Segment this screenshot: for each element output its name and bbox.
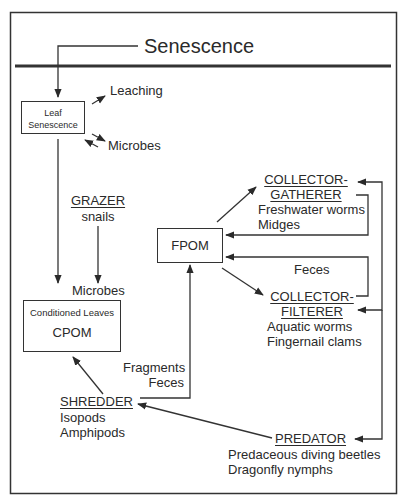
arrow-leaf-to-leaching [92,96,105,104]
shredder-member-2: Amphipods [60,426,125,439]
shredder-heading: SHREDDER [60,395,133,408]
arrow-predator-connector-predator [355,310,382,439]
predator-member-2: Dragonfly nymphs [228,463,333,476]
collector-gatherer-member-1: Freshwater worms [258,203,365,216]
arrow-leaf-to-microbes [92,134,105,141]
grazer-member: snails [70,210,126,223]
leaching-label: Leaching [110,84,163,97]
cpom-box: Conditioned Leaves CPOM [23,300,121,352]
collector-filterer-heading-2: FILTERER [264,305,360,318]
leaf-senescence-line-2: Senescence [22,119,84,131]
collector-filterer-member-2: Fingernail clams [267,335,362,348]
microbes-top-label: Microbes [108,139,161,152]
grazer-heading: GRAZER [70,194,126,207]
fpom-box: FPOM [157,228,223,263]
cpom-label: CPOM [24,325,120,341]
leaf-senescence-box: Leaf Senescence [21,101,85,134]
collector-gatherer-member-2: Midges [258,218,300,231]
arrow-predator-connector-filterer [358,300,382,310]
collector-gatherer-heading-2: GATHERER [256,188,356,201]
microbes-mid-label: Microbes [72,284,125,297]
collector-filterer-heading-1: COLLECTOR- [264,290,360,303]
collector-gatherer-heading-1: COLLECTOR- [256,173,356,186]
feces-bottom-label: Feces [123,376,184,389]
title-senescence: Senescence [144,36,254,56]
leaf-senescence-line-1: Leaf [22,107,84,119]
predator-member-1: Predaceous diving beetles [228,448,381,461]
arrow-predator-to-gatherer [358,182,382,300]
fragments-label: Fragments [123,361,184,374]
collector-filterer-member-1: Aquatic worms [267,320,352,333]
predator-heading: PREDATOR [275,432,346,445]
arrow-fpom-to-filterer [222,268,263,295]
food-web-diagram: Senescence Leaf Senescence Leaching Micr… [0,0,407,503]
fpom-label: FPOM [171,238,209,253]
shredder-member-1: Isopods [60,411,106,424]
feces-mid-label: Feces [294,263,329,276]
arrow-fpom-to-gatherer [217,187,256,222]
arrow-predator-to-shredder [138,404,272,438]
arrow-microbes-to-leaf [85,140,98,147]
cpom-subtitle: Conditioned Leaves [24,307,120,319]
arrow-shredder-to-cpom [73,357,103,394]
